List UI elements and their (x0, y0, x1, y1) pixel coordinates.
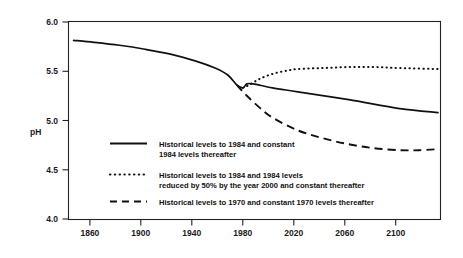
y-tick-label-5-5: 5.5 (46, 66, 58, 76)
y-axis-ticks (63, 22, 69, 219)
y-tick-label-5-0: 5.0 (46, 116, 58, 126)
legend-entry-2-line-2: reduced by 50% by the year 2000 and cons… (159, 181, 365, 190)
x-tick-label-1900: 1900 (131, 228, 150, 238)
x-axis-ticks (90, 220, 396, 226)
x-tick-label-2060: 2060 (335, 228, 354, 238)
x-tick-label-1860: 1860 (80, 228, 99, 238)
legend-entry-2-line-1: Historical levels to 1984 and 1984 level… (159, 171, 303, 180)
series-line-1984-reduced-50pct (243, 67, 438, 88)
x-tick-label-1940: 1940 (182, 228, 201, 238)
x-tick-label-2020: 2020 (284, 228, 303, 238)
ph-projection-line-chart: 6.0 5.5 5.0 4.5 4.0 pH 1860 1900 1940 19… (0, 0, 463, 258)
legend-entry-1-line-2: 1984 levels thereafter (159, 150, 236, 159)
y-tick-label-4-5: 4.5 (46, 165, 58, 175)
y-tick-label-6-0: 6.0 (46, 17, 58, 27)
legend-entry-3-line-1: Historical levels to 1970 and constant 1… (159, 198, 374, 207)
x-tick-label-1980: 1980 (233, 228, 252, 238)
series-line-1984-constant (74, 40, 438, 112)
chart-figure: 6.0 5.5 5.0 4.5 4.0 pH 1860 1900 1940 19… (0, 0, 463, 258)
legend-entry-1-line-1: Historical levels to 1984 and constant (159, 140, 295, 149)
plot-frame (69, 22, 441, 220)
x-tick-label-2100: 2100 (386, 228, 405, 238)
chart-legend: Historical levels to 1984 and constant 1… (110, 140, 374, 207)
y-axis-title: pH (30, 127, 41, 137)
y-tick-label-4-0: 4.0 (46, 214, 58, 224)
